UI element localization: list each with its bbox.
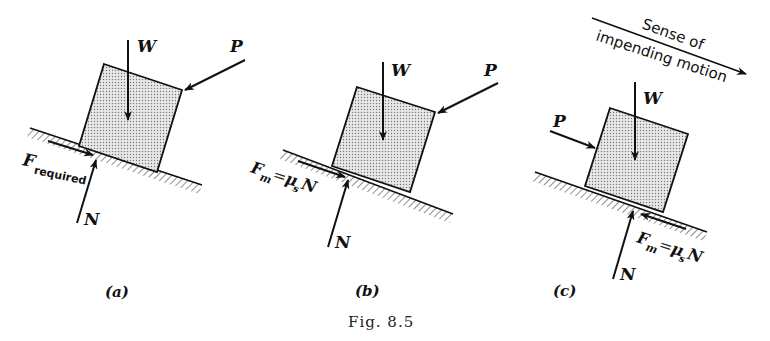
push-arrow <box>550 131 595 148</box>
normal-label: N <box>334 232 352 252</box>
svg-text:N: N <box>684 244 706 267</box>
figure-8-5: W P N F required (a) W P N F m = μ s N (… <box>0 0 770 341</box>
panel-label-b: (b) <box>355 282 380 300</box>
panel-c: Sense of impending motion W P N F m = μ … <box>532 15 746 300</box>
panel-a: W P N F required (a) <box>19 36 245 301</box>
svg-text:m: m <box>644 241 659 257</box>
panel-label-c: (c) <box>553 282 576 300</box>
figure-caption: Fig. 8.5 <box>348 313 414 331</box>
normal-label: N <box>83 209 101 229</box>
push-label: P <box>552 111 567 131</box>
svg-text:m: m <box>258 171 273 187</box>
panel-b: W P N F m = μ s N (b) <box>247 60 498 300</box>
push-label: P <box>483 60 498 80</box>
friction-label: F required <box>19 149 90 187</box>
svg-text:required: required <box>33 164 88 188</box>
weight-label: W <box>391 60 412 80</box>
svg-text:N: N <box>298 174 320 197</box>
weight-label: W <box>643 88 664 108</box>
normal-label: N <box>619 264 637 284</box>
panel-label-a: (a) <box>105 283 129 301</box>
push-label: P <box>229 36 244 56</box>
motion-direction: Sense of impending motion <box>592 15 746 86</box>
weight-label: W <box>137 36 158 56</box>
push-arrow <box>185 60 245 90</box>
push-arrow <box>438 83 498 113</box>
